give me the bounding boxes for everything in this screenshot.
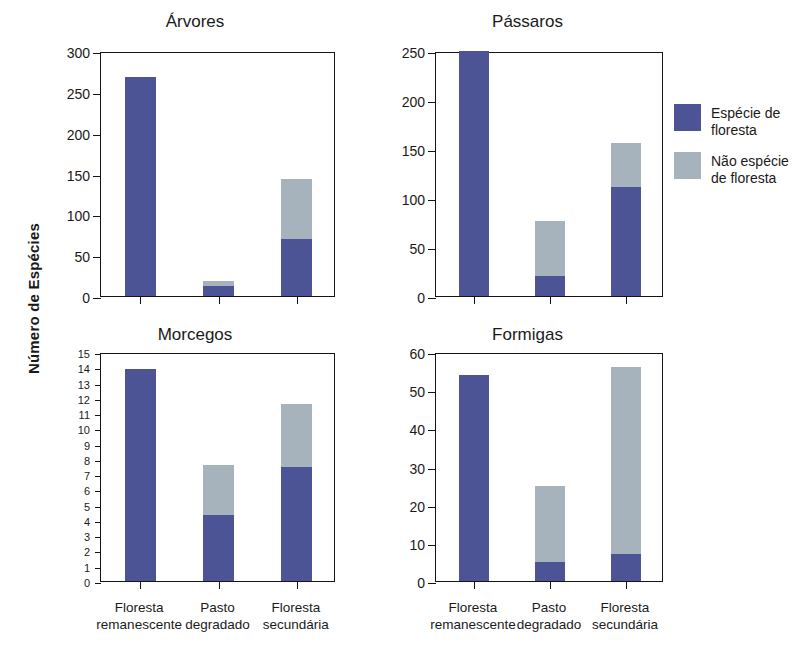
y-tick-label: 14 <box>78 363 90 375</box>
y-tick-mark <box>428 354 436 355</box>
bar-segment-nonforest <box>281 179 312 239</box>
bar-segment-forest <box>203 286 234 296</box>
y-tick-mark <box>95 385 101 386</box>
y-tick-mark <box>428 249 436 250</box>
y-tick-label: 100 <box>67 208 90 224</box>
chart-title-arvores: Árvores <box>50 12 340 32</box>
x-tick-mark <box>550 581 551 589</box>
y-tick-mark <box>95 461 101 462</box>
y-tick-label: 10 <box>78 424 90 436</box>
bar-segment-forest <box>125 77 156 296</box>
y-tick-label: 0 <box>84 577 90 589</box>
y-tick-mark <box>95 400 101 401</box>
y-tick-mark <box>95 354 101 355</box>
y-tick-label: 150 <box>402 143 425 159</box>
y-tick-label: 5 <box>84 501 90 513</box>
bar-segment-forest <box>535 276 565 296</box>
y-tick-mark <box>93 135 101 136</box>
y-tick-label: 12 <box>78 394 90 406</box>
chart-panel-morcegos: Morcegos 0123456789101112131415 <box>50 325 340 595</box>
bar-segment-forest <box>125 369 156 581</box>
bar-0 <box>459 375 489 581</box>
y-tick-label: 0 <box>82 290 90 306</box>
bar-1 <box>535 221 565 296</box>
y-tick-label: 7 <box>84 470 90 482</box>
y-tick-label: 1 <box>84 562 90 574</box>
bar-segment-forest <box>611 187 641 296</box>
bar-segment-forest <box>281 239 312 296</box>
legend-label-forest: Espécie de floresta <box>711 104 807 138</box>
y-tick-mark <box>428 151 436 152</box>
y-tick-mark <box>95 583 101 584</box>
x-tick-mark <box>297 296 298 304</box>
x-tick-mark <box>626 296 627 304</box>
bar-segment-forest <box>281 467 312 581</box>
plot-area-passaros: 050100150200250 <box>435 52 663 297</box>
y-tick-label: 50 <box>409 241 425 257</box>
bar-segment-forest <box>611 554 641 581</box>
y-tick-mark <box>428 507 436 508</box>
y-tick-mark <box>95 568 101 569</box>
y-tick-label: 30 <box>409 461 425 477</box>
bar-segment-forest <box>459 375 489 581</box>
y-tick-label: 250 <box>67 86 90 102</box>
x-tick-mark <box>219 296 220 304</box>
y-tick-label: 3 <box>84 531 90 543</box>
y-tick-mark <box>95 491 101 492</box>
y-tick-label: 0 <box>417 290 425 306</box>
bar-segment-nonforest <box>281 404 312 467</box>
bar-1 <box>203 281 234 296</box>
legend-item-forest: Espécie de floresta <box>674 104 807 138</box>
y-tick-mark <box>95 476 101 477</box>
bar-segment-forest <box>535 562 565 581</box>
y-tick-label: 11 <box>79 409 90 421</box>
chart-title-morcegos: Morcegos <box>50 325 340 345</box>
y-tick-mark <box>93 53 101 54</box>
x-tick-mark <box>140 581 141 589</box>
y-tick-mark <box>95 537 101 538</box>
y-tick-mark <box>428 545 436 546</box>
x-category-label: Floresta secundária <box>574 600 676 634</box>
plot-area-formigas: 0102030405060 <box>435 353 663 582</box>
bar-0 <box>125 369 156 581</box>
y-tick-mark <box>95 552 101 553</box>
y-tick-mark <box>95 430 101 431</box>
y-axis-label: Número de Espécies <box>25 174 42 424</box>
y-tick-label: 250 <box>402 45 425 61</box>
y-tick-label: 40 <box>409 422 425 438</box>
chart-title-formigas: Formigas <box>385 325 670 345</box>
bar-segment-nonforest <box>535 221 565 277</box>
legend: Espécie de floresta Não espécie de flore… <box>674 104 807 200</box>
bar-1 <box>535 486 565 581</box>
y-tick-label: 20 <box>409 499 425 515</box>
y-tick-mark <box>428 53 436 54</box>
x-category-label: Floresta secundária <box>244 600 348 634</box>
legend-swatch-nonforest-icon <box>674 152 701 179</box>
legend-label-nonforest: Não espécie de floresta <box>711 152 807 186</box>
bar-segment-nonforest <box>611 367 641 554</box>
y-tick-mark <box>428 469 436 470</box>
y-tick-mark <box>428 430 436 431</box>
chart-panel-passaros: Pássaros 050100150200250 <box>385 12 670 302</box>
bar-2 <box>611 143 641 296</box>
bar-1 <box>203 465 234 581</box>
y-tick-mark <box>428 583 436 584</box>
y-tick-mark <box>93 216 101 217</box>
bar-segment-nonforest <box>203 465 234 515</box>
x-tick-mark <box>550 296 551 304</box>
x-tick-mark <box>219 581 220 589</box>
y-tick-mark <box>95 369 101 370</box>
y-tick-label: 10 <box>409 537 425 553</box>
y-tick-label: 60 <box>409 346 425 362</box>
y-tick-label: 4 <box>84 516 90 528</box>
plot-area-arvores: 050100150200250300 <box>100 52 335 297</box>
y-tick-label: 6 <box>84 485 90 497</box>
bar-2 <box>281 179 312 296</box>
bar-segment-nonforest <box>535 486 565 562</box>
y-tick-mark <box>95 415 101 416</box>
bar-segment-forest <box>203 515 234 581</box>
y-tick-mark <box>93 298 101 299</box>
legend-item-nonforest: Não espécie de floresta <box>674 152 807 186</box>
x-tick-mark <box>626 581 627 589</box>
x-tick-mark <box>474 581 475 589</box>
